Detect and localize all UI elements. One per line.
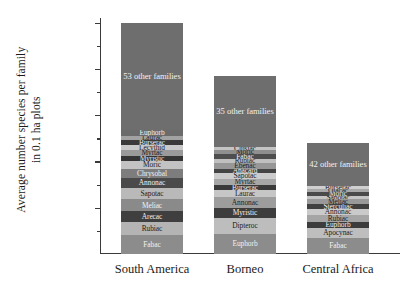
x-axis-label-0: South America xyxy=(115,262,190,277)
bar-segment-label: 53 other families xyxy=(123,71,180,81)
bar-segment-label: Moric xyxy=(143,161,161,168)
x-axis-label-2: Central Africa xyxy=(302,262,373,277)
bar-segment-label: Chrysobal xyxy=(137,170,167,178)
bar-segment[interactable]: Myristic xyxy=(214,208,276,218)
bar-borneo[interactable]: 35 other familiesClusiacMoricFabacRubiac… xyxy=(214,76,276,254)
y-axis-title-line-2: in 0.1 ha plots xyxy=(29,47,44,213)
y-tick-major xyxy=(95,161,100,162)
y-tick-major xyxy=(95,69,100,70)
y-tick-major xyxy=(95,208,100,209)
bar-segment-label: Annonac xyxy=(232,199,258,207)
bar-segment[interactable]: Euphorb xyxy=(214,234,276,254)
bar-segment[interactable]: Rubiac xyxy=(121,222,183,235)
bar-segment-label: Fabac xyxy=(143,241,160,249)
bar-segment-label: Rubiac xyxy=(142,225,163,233)
bar-segment-label: Arecac xyxy=(142,213,163,221)
bar-segment-label: 35 other families xyxy=(216,106,273,116)
bar-segment[interactable]: Dipteroc xyxy=(214,218,276,234)
bar-segment-label: Meliac xyxy=(142,202,162,210)
bar-segment[interactable]: Apocynac xyxy=(307,228,369,238)
y-axis-title-line-1: Average number species per family xyxy=(14,47,29,213)
y-tick-minor xyxy=(97,185,100,186)
bar-segment-label: Sapotac xyxy=(140,190,163,198)
bar-segment-label: Fabac xyxy=(329,242,346,250)
y-tick-minor xyxy=(97,138,100,139)
y-tick-major xyxy=(95,115,100,116)
bar-segment[interactable]: Chrysobal xyxy=(121,169,183,178)
x-axis-label-1: Borneo xyxy=(227,262,264,277)
stacked-bar-chart: Average number species per family in 0.1… xyxy=(0,0,413,290)
bar-segment-label: Annonac xyxy=(139,179,165,187)
bar-segment[interactable]: Fabac xyxy=(121,235,183,254)
y-axis-title: Average number species per family in 0.1… xyxy=(0,0,58,260)
plot-area: 50100150200250 53 other familiesEuphorbL… xyxy=(100,18,400,254)
bar-segment-label: Laurac xyxy=(235,190,255,197)
bar-segment[interactable]: Meliac xyxy=(121,199,183,211)
y-tick-minor xyxy=(97,92,100,93)
bar-segment-label: Myristic xyxy=(233,209,258,217)
bar-segment[interactable]: 42 other families xyxy=(307,143,369,186)
bar-segment-label: Apocynac xyxy=(323,229,353,237)
y-axis-line xyxy=(100,18,101,254)
bar-segment[interactable]: 53 other families xyxy=(121,23,183,130)
y-tick-minor xyxy=(97,46,100,47)
bar-segment[interactable]: Annonac xyxy=(121,178,183,188)
bar-segment[interactable]: Sapotac xyxy=(121,188,183,199)
bar-segment[interactable]: Laurac xyxy=(214,190,276,197)
bar-segment[interactable]: Arecac xyxy=(121,211,183,222)
bar-segment[interactable]: Fabac xyxy=(307,238,369,254)
bar-segment-label: Euphorb xyxy=(232,240,257,248)
bar-central-africa[interactable]: 42 other familiesBurseracOlacacMoricSapo… xyxy=(307,143,369,254)
bar-segment-label: 42 other families xyxy=(309,159,366,169)
bar-south-america[interactable]: 53 other familiesEuphorbLauracBurseracLe… xyxy=(121,23,183,254)
bar-segment[interactable]: Moric xyxy=(121,161,183,168)
bar-segment-label: Dipteroc xyxy=(232,222,257,230)
bar-segment[interactable]: 35 other families xyxy=(214,76,276,146)
y-tick-minor xyxy=(97,231,100,232)
bar-segment[interactable]: Annonac xyxy=(214,197,276,207)
y-tick-major xyxy=(95,23,100,24)
